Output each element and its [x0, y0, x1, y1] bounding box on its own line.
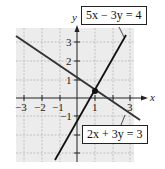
x-axis-label: x [150, 91, 155, 103]
x-tick-neg2: −2 [34, 102, 46, 113]
x-tick-neg3: −3 [15, 102, 27, 113]
equation-label-2: 2x + 3y = 3 [82, 125, 148, 144]
y-tick-neg1: −1 [60, 111, 72, 122]
y-tick-2: 2 [66, 56, 72, 67]
y-tick-1: 1 [66, 75, 72, 86]
equation-label-1: 5x − 3y = 4 [81, 6, 147, 25]
x-tick-1: 1 [92, 102, 98, 113]
x-axis-arrow-icon [141, 96, 148, 101]
intersection-point [92, 88, 98, 94]
x-tick-3: 3 [127, 102, 133, 113]
y-axis-label: y [72, 11, 77, 23]
y-tick-3: 3 [66, 37, 72, 48]
